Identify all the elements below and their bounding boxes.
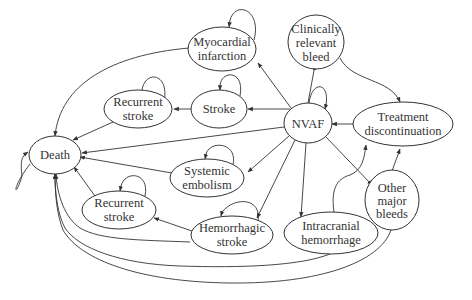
node-recurrent-stroke-top: Recurrent stroke: [104, 90, 172, 128]
edge-nvaf-to-other-major-bleeds: [326, 137, 372, 185]
svg-text:infarction: infarction: [198, 49, 247, 63]
edge-nvaf-to-systemic-embolism: [248, 136, 289, 172]
state-transition-diagram: Myocardial infarction Clinically relevan…: [0, 0, 472, 300]
node-recurrent-stroke-bottom: Recurrent stroke: [82, 191, 156, 229]
edge-other-major-bleeds-to-treatment-discontinuation: [392, 149, 400, 171]
node-treatment-discontinuation: Treatment discontinuation: [353, 102, 453, 146]
node-systemic-embolism: Systemic embolism: [170, 159, 244, 197]
svg-text:Systemic: Systemic: [184, 164, 230, 178]
edge-systemic-embolism-to-death: [80, 157, 172, 173]
svg-text:hemorrhage: hemorrhage: [301, 233, 361, 247]
edge-recurrent-stroke-top-to-death: [73, 122, 113, 140]
edge-hemorrhagic-stroke-to-recurrent-stroke-bottom: [154, 218, 192, 231]
self-loops: [16, 10, 327, 221]
self-loop-death: [16, 152, 30, 190]
svg-text:Clinically: Clinically: [291, 22, 341, 36]
node-nvaf: NVAF: [284, 103, 332, 143]
edge-nvaf-to-death: [82, 127, 284, 153]
node-myocardial-infarction: Myocardial infarction: [188, 27, 256, 71]
svg-text:embolism: embolism: [182, 178, 232, 192]
svg-text:Treatment: Treatment: [378, 110, 429, 124]
edge-nvaf-to-intracranial-hemorrhage: [301, 143, 306, 217]
svg-text:Death: Death: [40, 148, 71, 162]
svg-text:major: major: [377, 194, 407, 208]
edge-recurrent-stroke-bottom-to-death: [74, 167, 95, 196]
edge-nvaf-to-hemorrhagic-stroke: [257, 140, 295, 218]
svg-text:relevant: relevant: [296, 36, 337, 50]
node-death: Death: [29, 136, 81, 174]
svg-text:bleed: bleed: [302, 50, 330, 64]
svg-text:discontinuation: discontinuation: [364, 124, 442, 138]
node-stroke: Stroke: [191, 90, 247, 128]
svg-text:Stroke: Stroke: [203, 102, 236, 116]
svg-text:Recurrent: Recurrent: [113, 95, 163, 109]
svg-text:Intracranial: Intracranial: [302, 219, 360, 233]
node-clinically-relevant-bleed: Clinically relevant bleed: [288, 15, 344, 69]
svg-text:Myocardial: Myocardial: [193, 35, 251, 49]
node-hemorrhagic-stroke: Hemorrhagic stroke: [191, 216, 273, 254]
edge-nvaf-to-clinically-relevant-bleed: [308, 65, 315, 103]
svg-text:Hemorrhagic: Hemorrhagic: [199, 221, 265, 235]
edge-clinically-relevant-bleed-to-treatment-discontinuation: [340, 58, 400, 102]
svg-text:stroke: stroke: [217, 235, 248, 249]
svg-text:NVAF: NVAF: [292, 117, 324, 131]
svg-text:bleeds: bleeds: [376, 207, 408, 221]
node-other-major-bleeds: Other major bleeds: [365, 170, 419, 230]
edge-nvaf-to-myocardial-infarction: [258, 63, 291, 108]
svg-text:stroke: stroke: [104, 210, 135, 224]
edge-intracranial-hemorrhage-to-treatment-discontinuation: [333, 145, 366, 212]
svg-text:Other: Other: [378, 181, 407, 195]
svg-text:stroke: stroke: [123, 109, 154, 123]
node-intracranial-hemorrhage: Intracranial hemorrhage: [284, 212, 378, 254]
svg-text:Recurrent: Recurrent: [94, 196, 144, 210]
